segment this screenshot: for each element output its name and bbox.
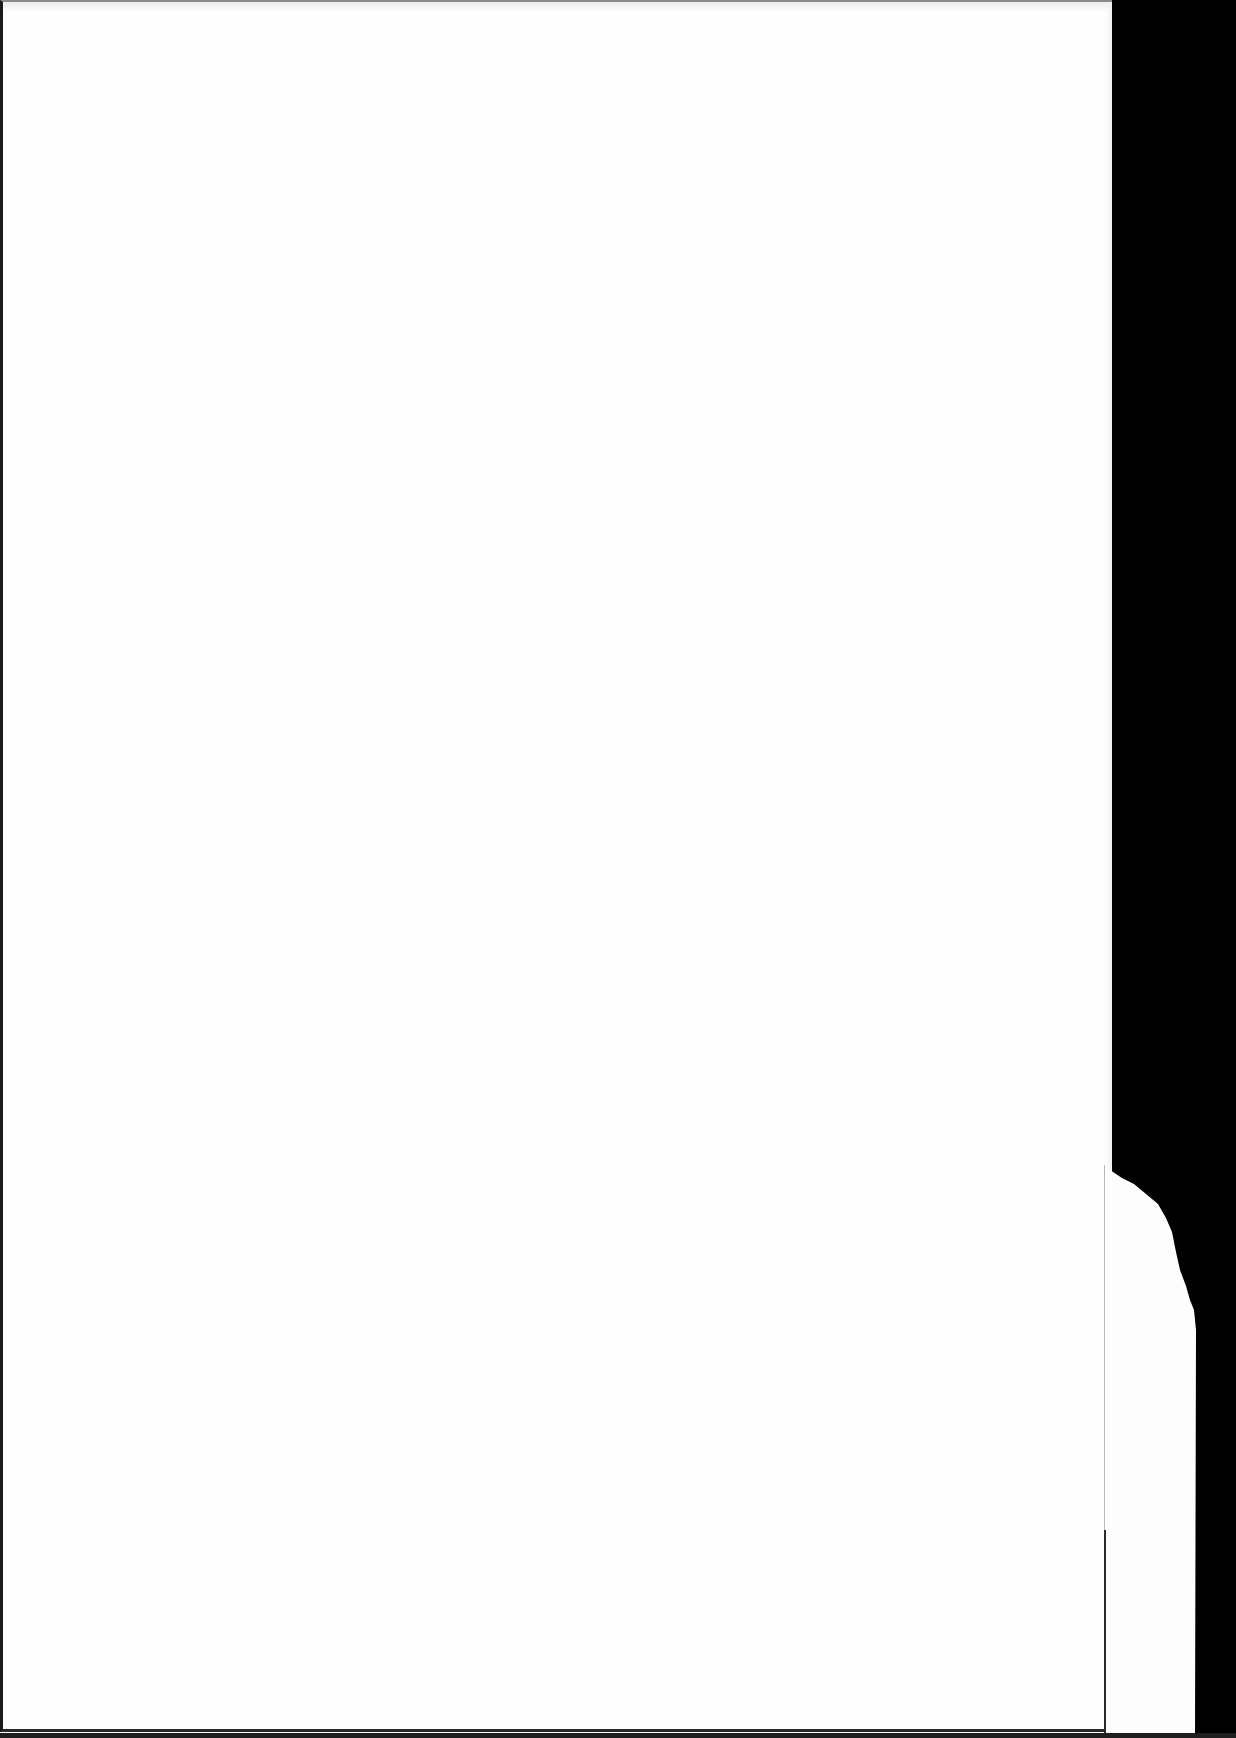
scanned-document [0,0,1236,1738]
blank-page [0,0,1112,1732]
page-top-shadow [3,2,1112,12]
page-content [63,62,1052,1669]
torn-paper-fragment [1104,1160,1236,1738]
page-bottom-edge [0,1733,1236,1738]
page-fold-shadow [1104,1530,1106,1735]
